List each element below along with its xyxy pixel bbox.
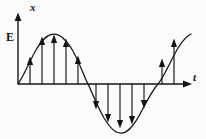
arrowhead-down-icon: [141, 100, 147, 109]
arrowhead-up-icon: [171, 39, 177, 48]
arrowhead-up-icon: [159, 59, 165, 68]
wave-diagram-svg: [0, 0, 206, 139]
field-magnitude-label: E: [6, 31, 14, 43]
horizontal-axis-arrowhead: [183, 81, 192, 88]
horizontal-axis-label: t: [193, 72, 196, 83]
axes-group: [15, 13, 192, 88]
arrowhead-up-icon: [51, 35, 57, 44]
arrowhead-down-icon: [117, 120, 123, 129]
field-vectors-down-trough: [96, 84, 144, 120]
vertical-axis-arrowhead: [15, 13, 22, 22]
vertical-axis-label: x: [30, 2, 36, 13]
arrowhead-down-icon: [93, 101, 99, 110]
wave-figure: x t E: [0, 0, 206, 139]
